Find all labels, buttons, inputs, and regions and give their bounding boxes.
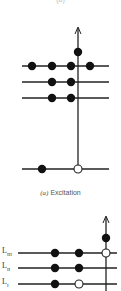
caption-excitation: (a) Excitation	[0, 189, 121, 197]
electron	[48, 78, 56, 86]
excited-electron	[74, 48, 82, 56]
hole	[102, 249, 110, 257]
panel-b-l-shell	[18, 216, 117, 291]
caption-prefix: (a)	[40, 189, 48, 197]
label-LI: LI	[2, 277, 9, 288]
electron	[51, 264, 59, 272]
electron	[67, 94, 75, 102]
electron	[48, 62, 56, 70]
label-LII: LII	[2, 261, 10, 272]
panel-a-excitation	[22, 27, 109, 173]
hole	[75, 280, 83, 288]
hole	[74, 165, 82, 173]
electron	[75, 249, 83, 257]
energy-level-diagram	[0, 0, 121, 291]
electron	[51, 280, 59, 288]
electron	[28, 62, 36, 70]
electron	[38, 165, 46, 173]
label-LIII: LIII	[2, 246, 12, 257]
excited-electron	[102, 234, 110, 242]
electron	[51, 249, 59, 257]
electron	[48, 94, 56, 102]
electron	[86, 62, 94, 70]
caption-text: Excitation	[50, 189, 80, 196]
electron	[75, 264, 83, 272]
electron	[67, 78, 75, 86]
electron	[67, 62, 75, 70]
